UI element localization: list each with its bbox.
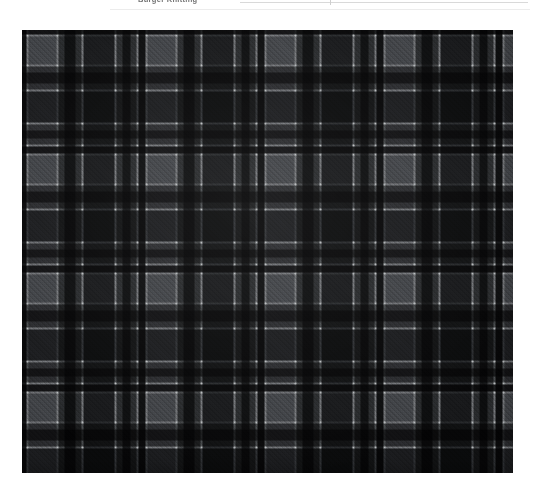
header-tick-mark [330,0,331,5]
header-divider-rule-2 [110,9,530,10]
header-divider-rule [240,2,528,3]
header-caption: Burger Knitting [138,0,198,4]
tartan-fabric-swatch [22,30,513,473]
weave-grain-layer [22,30,513,473]
page-header-strip: Burger Knitting [0,0,536,14]
